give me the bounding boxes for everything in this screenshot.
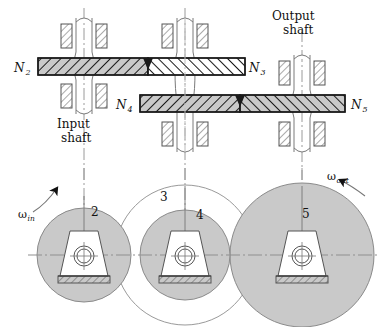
output-shaft-label-line1: Output [272, 9, 315, 23]
bearing-pedestals [58, 231, 328, 283]
output-shaft-label-line2: shaft [283, 23, 313, 37]
gear-number-3: 3 [160, 190, 168, 204]
gear-bar-N4 [140, 95, 240, 112]
bearing-block [279, 61, 290, 85]
bearing-block [314, 122, 325, 146]
gear-bar-N2 [38, 58, 148, 75]
gear-number-2: 2 [91, 205, 99, 219]
gear-train-figure: N2 N3 N4 N5 Input shaft Output shaft [0, 0, 378, 327]
gear-bar-N3 [148, 58, 245, 75]
bearing-block [197, 24, 208, 48]
gear-number-4: 4 [196, 208, 204, 222]
input-shaft-label-line1: Input [57, 117, 90, 131]
gear-bar-N5 [240, 95, 345, 112]
bearing-block [162, 122, 173, 146]
bearing-block [162, 24, 173, 48]
bearing-block [96, 84, 107, 108]
input-shaft-label-line2: shaft [61, 131, 91, 145]
bearing-block [61, 24, 72, 48]
bearing-block [197, 122, 208, 146]
bearing-block [61, 84, 72, 108]
bearing-block [279, 122, 290, 146]
bearing-block [314, 61, 325, 85]
bearing-block [96, 24, 107, 48]
gear-number-5: 5 [302, 207, 310, 221]
